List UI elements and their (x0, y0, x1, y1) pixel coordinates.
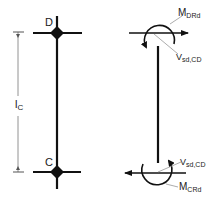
left-panel-column: D C (33, 16, 82, 189)
bottom-shear-leader (158, 162, 181, 172)
moment-label-m-drd: MDRd (178, 7, 200, 19)
column-moment-diagram: D C lC MDRd Vsd,CD Vsd,CD (0, 0, 214, 200)
node-label-c: C (45, 156, 53, 168)
moment-label-m-crd: MCRd (179, 181, 201, 193)
dimension-label: lC (15, 98, 23, 112)
shear-label-bottom: Vsd,CD (180, 157, 205, 168)
right-panel-free-body: MDRd Vsd,CD Vsd,CD MCRd (125, 7, 205, 193)
joint-d-diamond-icon (50, 26, 64, 40)
top-moment-arc-icon (144, 25, 174, 47)
dimension-line-lc: lC (13, 32, 24, 172)
node-label-d: D (45, 16, 53, 28)
bottom-moment-leader (166, 184, 178, 187)
shear-label-top: Vsd,CD (176, 52, 201, 63)
